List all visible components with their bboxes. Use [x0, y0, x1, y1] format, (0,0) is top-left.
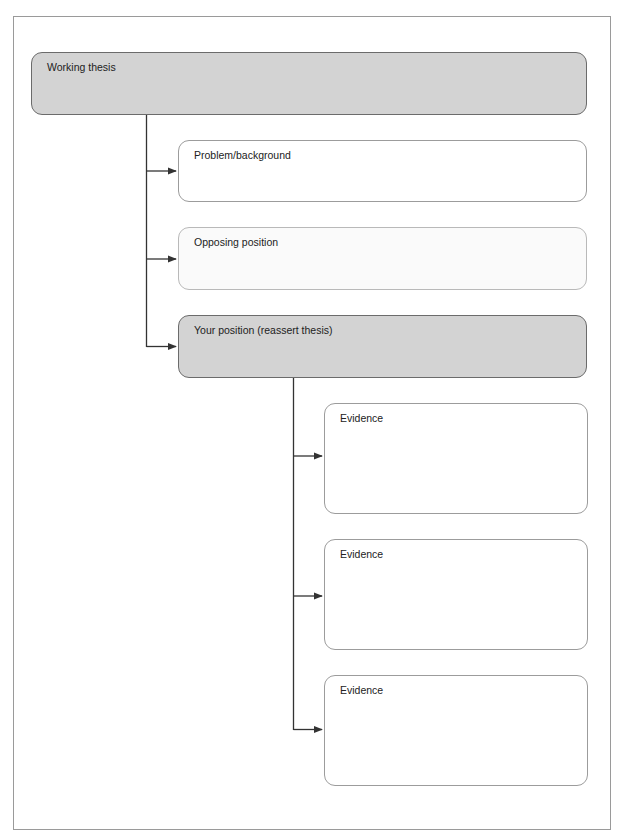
your-position-label: Your position (reassert thesis) [194, 324, 333, 336]
evidence-label-2: Evidence [340, 548, 383, 560]
evidence-label-1: Evidence [340, 412, 383, 424]
working-thesis-label: Working thesis [47, 61, 116, 73]
evidence-box-1[interactable]: Evidence [324, 403, 588, 514]
evidence-label-3: Evidence [340, 684, 383, 696]
problem-background-label: Problem/background [194, 149, 291, 161]
working-thesis-box[interactable]: Working thesis [31, 52, 587, 115]
your-position-box[interactable]: Your position (reassert thesis) [178, 315, 587, 378]
evidence-box-3[interactable]: Evidence [324, 675, 588, 786]
opposing-position-box[interactable]: Opposing position [178, 227, 587, 290]
problem-background-box[interactable]: Problem/background [178, 140, 587, 202]
evidence-box-2[interactable]: Evidence [324, 539, 588, 650]
opposing-position-label: Opposing position [194, 236, 278, 248]
